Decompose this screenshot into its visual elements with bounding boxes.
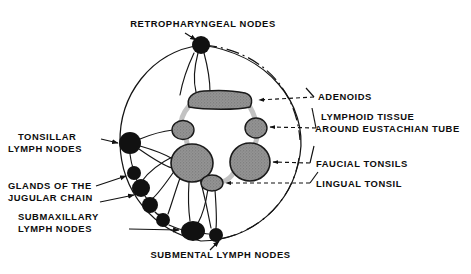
leader-submaxillary [129,229,179,230]
label-adenoids: ADENOIDS [318,91,418,103]
leader-faucial [273,162,310,163]
label-tonsillar-lymph-nodes-line2: LYMPH NODES [8,143,100,155]
lymphatic-ring-diagram: RETROPHARYNGEAL NODES TONSILLAR LYMPH NO… [0,0,471,274]
label-submental-lymph-nodes: SUBMENTAL LYMPH NODES [113,249,328,261]
label-retropharyngeal-nodes: RETROPHARYNGEAL NODES [93,18,313,30]
label-faucial-tonsils: FAUCIAL TONSILS [316,158,408,170]
label-lingual-tonsil: LINGUAL TONSIL [316,178,402,190]
lymphoid-tissue-eustachian-right-shape [245,118,267,138]
label-submaxillary-line2: LYMPH NODES [18,223,128,235]
label-eustachian-line2: AROUND EUSTACHIAN TUBE [315,123,460,135]
leader-adenoids [259,97,314,100]
lingual-tonsil-shape [201,175,223,191]
leader-jugular-2 [100,195,134,202]
tonsillar-node [119,132,141,154]
leader-jugular-1 [96,176,126,186]
label-tonsillar-lymph-nodes-line1: TONSILLAR [18,131,100,143]
label-submaxillary-line1: SUBMAXILLARY [18,211,128,223]
leader-eustachian [270,127,316,128]
jugular-node-3 [142,197,158,213]
lymphoid-tissue-eustachian-left-shape [172,121,194,140]
jugular-node-1 [127,166,141,180]
jugular-node-2 [132,179,150,197]
adenoids-shape [188,91,251,110]
submental-node [209,228,223,242]
faucial-tonsil-right-shape [230,143,270,181]
label-eustachian-line1: LYMPHOID TISSUE [321,111,414,123]
jugular-node-4 [156,213,170,227]
leader-retropharyngeal [185,33,196,40]
submaxillary-node [181,221,205,241]
leader-tonsillar [101,139,118,143]
label-jugular-chain-line2: JUGULAR CHAIN [8,192,100,204]
label-jugular-chain-line1: GLANDS OF THE [8,180,96,192]
